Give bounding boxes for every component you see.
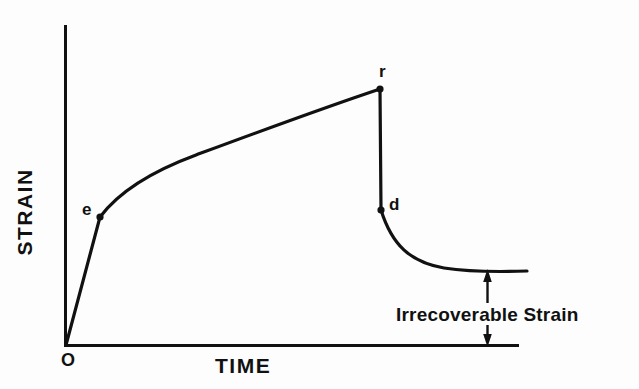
point-marker-r [376, 85, 383, 92]
x-axis-label: TIME [215, 355, 271, 376]
irrecoverable-strain-annotation: Irrecoverable Strain [396, 305, 578, 324]
curve-primary-creep [100, 89, 380, 217]
figure-canvas [0, 0, 639, 389]
point-label-r: r [379, 63, 386, 80]
origin-label: O [61, 351, 75, 369]
curve-delayed-recovery [381, 210, 527, 272]
point-marker-e [96, 213, 103, 220]
creep-recovery-figure: STRAIN TIME O e r d Irrecoverable Strain [0, 0, 639, 389]
y-axis-label: STRAIN [14, 152, 38, 272]
point-label-e: e [82, 201, 91, 218]
point-label-d: d [389, 196, 399, 213]
curve-elastic-loading [66, 217, 100, 345]
point-marker-d [377, 206, 384, 213]
curve-elastic-recovery [380, 89, 381, 210]
